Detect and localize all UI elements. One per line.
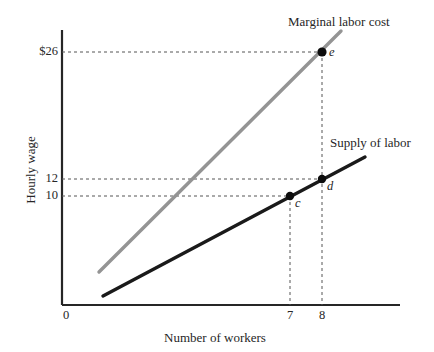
point-label-e: e xyxy=(329,45,335,60)
economics-chart-figure: $26 12 10 0 7 8 Hourly wage Number of wo… xyxy=(0,0,434,352)
y-axis-title-wrapper: Hourly wage xyxy=(20,130,42,210)
data-point-c xyxy=(286,192,294,200)
x-axis-title: Number of workers xyxy=(150,330,280,346)
chart-plot-area xyxy=(0,0,434,352)
marginal-labor-cost-label: Marginal labor cost xyxy=(288,14,390,30)
point-label-c: c xyxy=(295,196,301,211)
x-origin-label: 0 xyxy=(58,308,74,323)
x-tick-label-8: 8 xyxy=(314,308,330,323)
point-label-d: d xyxy=(327,179,333,194)
y-axis-title: Hourly wage xyxy=(23,136,39,204)
data-point-d xyxy=(318,175,326,183)
y-tick-label-26: $26 xyxy=(28,44,58,59)
supply-of-labor-label: Supply of labor xyxy=(330,135,411,151)
x-tick-label-7: 7 xyxy=(282,308,298,323)
data-point-e xyxy=(317,47,326,56)
